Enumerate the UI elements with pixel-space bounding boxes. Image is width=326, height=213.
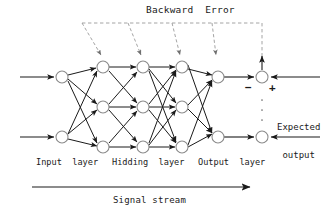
output-layer-label: Output layer: [198, 158, 265, 167]
input-layer-label: Input layer: [36, 158, 98, 167]
node-hidden3-3[interactable]: [176, 141, 188, 153]
node-summation-1[interactable]: [256, 71, 268, 83]
node-hidden1-3[interactable]: [97, 141, 109, 153]
backward-drop-3: [172, 23, 180, 55]
node-input-1[interactable]: [56, 71, 68, 83]
node-hidden2-3[interactable]: [137, 141, 149, 153]
plus-sign-label: +: [269, 82, 276, 94]
backward-error-title: Backward Error: [146, 5, 235, 15]
backward-error-path: [82, 23, 262, 60]
node-hidden1-1[interactable]: [97, 61, 109, 73]
edges-hidden3-to-output: [188, 65, 212, 147]
backward-drop-1: [82, 23, 101, 55]
backward-drop-2: [128, 23, 141, 55]
expected-output-line-1: Expected: [277, 123, 320, 132]
node-hidden3-1[interactable]: [176, 61, 188, 73]
node-output-2[interactable]: [212, 131, 224, 143]
edges-hidden1-to-hidden2: [109, 67, 137, 147]
expected-output-label: Expected output: [277, 104, 320, 180]
node-hidden3-2[interactable]: [176, 101, 188, 113]
node-summation-2[interactable]: [256, 131, 268, 143]
hidden-layer-label: Hidding layer: [112, 158, 184, 167]
node-hidden2-2[interactable]: [137, 101, 149, 113]
node-hidden2-1[interactable]: [137, 61, 149, 73]
node-input-2[interactable]: [56, 131, 68, 143]
expected-output-line-2: output: [277, 151, 320, 160]
minus-sign-label: −: [245, 82, 252, 94]
backward-error-drops: [82, 23, 216, 55]
signal-stream-label: Signal stream: [113, 196, 186, 205]
node-output-1[interactable]: [212, 71, 224, 83]
vertical-ellipsis: [261, 99, 263, 121]
input-arrows: [20, 77, 54, 137]
edges-input-to-hidden1: [68, 68, 97, 146]
neural-network-diagram: Backward Error Input layer Hidding layer…: [0, 0, 326, 213]
backward-drop-4: [212, 23, 216, 55]
edges-hidden2-to-hidden3: [149, 67, 176, 147]
node-hidden1-2[interactable]: [97, 101, 109, 113]
